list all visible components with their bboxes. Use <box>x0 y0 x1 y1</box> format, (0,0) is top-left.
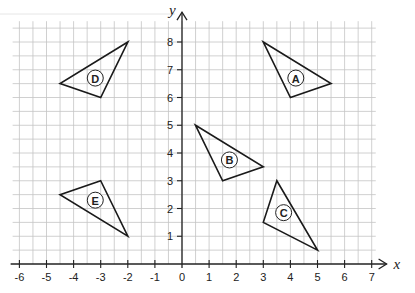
x-tick-label: 5 <box>314 271 320 283</box>
y-tick-label: 3 <box>167 175 173 187</box>
triangle-label: D <box>91 73 99 85</box>
y-axis-label: y <box>167 2 176 18</box>
x-axis-label: x <box>393 256 401 272</box>
x-tick-label: 7 <box>369 271 375 283</box>
coordinate-grid-svg: xy -6-5-4-3-2-10123456712345678 ABCDE <box>0 0 415 293</box>
x-tick-label: 2 <box>233 271 239 283</box>
x-tick-label: -4 <box>69 271 79 283</box>
y-tick-label: 4 <box>167 147 173 159</box>
triangle-label: C <box>280 207 288 219</box>
coordinate-plane: xy -6-5-4-3-2-10123456712345678 ABCDE <box>0 0 415 293</box>
x-tick-label: 4 <box>287 271 293 283</box>
y-tick-label: 5 <box>167 119 173 131</box>
x-tick-label: 0 <box>179 271 185 283</box>
y-tick-label: 2 <box>167 203 173 215</box>
x-tick-label: 6 <box>342 271 348 283</box>
axes: xy <box>11 2 401 272</box>
x-tick-label: 1 <box>206 271 212 283</box>
x-tick-label: -5 <box>42 271 52 283</box>
y-tick-label: 7 <box>167 64 173 76</box>
y-tick-label: 8 <box>167 36 173 48</box>
y-tick-label: 1 <box>167 230 173 242</box>
x-tick-label: 3 <box>260 271 266 283</box>
x-tick-label: -1 <box>150 271 160 283</box>
grid-lines <box>13 21 376 264</box>
x-tick-label: -2 <box>123 271 133 283</box>
triangle-label: B <box>225 154 233 166</box>
x-tick-label: -6 <box>15 271 25 283</box>
axis-ticks: -6-5-4-3-2-10123456712345678 <box>15 36 375 283</box>
y-tick-label: 6 <box>167 92 173 104</box>
x-tick-label: -3 <box>96 271 106 283</box>
triangle-label: E <box>92 195 99 207</box>
triangle-label: A <box>292 73 300 85</box>
